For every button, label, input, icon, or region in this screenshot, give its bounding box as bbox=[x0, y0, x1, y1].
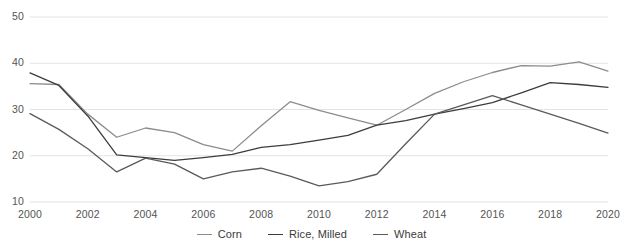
legend-swatch-icon bbox=[373, 234, 388, 235]
legend-item-corn[interactable]: Corn bbox=[197, 228, 242, 240]
legend-item-rice-milled[interactable]: Rice, Milled bbox=[268, 228, 347, 240]
x-tick-label: 2010 bbox=[299, 208, 339, 220]
x-tick-label: 2000 bbox=[10, 208, 50, 220]
legend-label: Corn bbox=[218, 228, 242, 240]
y-tick-label: 10 bbox=[2, 195, 24, 207]
x-tick-label: 2014 bbox=[415, 208, 455, 220]
series-lines bbox=[30, 62, 608, 186]
x-tick-label: 2008 bbox=[241, 208, 281, 220]
y-tick-label: 30 bbox=[2, 103, 24, 115]
x-tick-label: 2016 bbox=[472, 208, 512, 220]
x-tick-label: 2006 bbox=[183, 208, 223, 220]
legend-label: Wheat bbox=[394, 228, 426, 240]
y-tick-label: 40 bbox=[2, 56, 24, 68]
y-tick-label: 20 bbox=[2, 149, 24, 161]
legend-swatch-icon bbox=[268, 234, 283, 235]
series-line-corn bbox=[30, 62, 608, 151]
x-tick-label: 2012 bbox=[357, 208, 397, 220]
legend-swatch-icon bbox=[197, 234, 212, 235]
x-tick-label: 2004 bbox=[126, 208, 166, 220]
y-tick-label: 50 bbox=[2, 10, 24, 22]
gridlines bbox=[30, 17, 608, 202]
x-tick-label: 2018 bbox=[530, 208, 570, 220]
legend-label: Rice, Milled bbox=[289, 228, 347, 240]
chart-legend: CornRice, MilledWheat bbox=[0, 228, 623, 240]
x-tick-label: 2020 bbox=[588, 208, 623, 220]
line-chart: 5040302010 20002002200420062008201020122… bbox=[0, 0, 623, 251]
legend-item-wheat[interactable]: Wheat bbox=[373, 228, 426, 240]
series-line-rice-milled bbox=[30, 73, 608, 160]
x-tick-label: 2002 bbox=[68, 208, 108, 220]
